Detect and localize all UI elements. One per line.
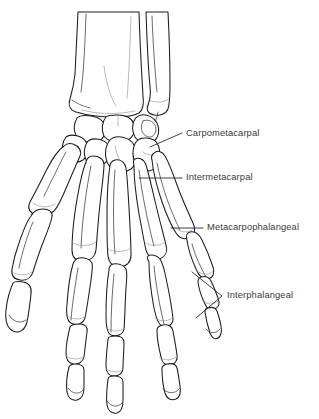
middle-proximal-phalanx xyxy=(106,264,127,336)
ulna-bone xyxy=(146,12,170,115)
hand-skeleton-figure: Carpometacarpal Intermetacarpal Metacarp… xyxy=(0,0,319,419)
index-middle-phalanx xyxy=(66,324,87,364)
label-intermetacarpal: Intermetacarpal xyxy=(186,171,253,182)
forearm-bones xyxy=(69,12,170,122)
radius-bone xyxy=(69,12,143,117)
middle-middle-phalanx xyxy=(106,336,124,376)
label-metacarpophalangeal: Metacarpophalangeal xyxy=(207,221,299,232)
hand-skeleton-diagram: Carpometacarpal Intermetacarpal Metacarp… xyxy=(0,0,319,419)
middle-distal-phalanx xyxy=(107,376,123,413)
label-carpometacarpal: Carpometacarpal xyxy=(186,127,259,138)
index-distal-phalanx xyxy=(67,364,84,400)
label-interphalangeal: Interphalangeal xyxy=(227,289,293,300)
